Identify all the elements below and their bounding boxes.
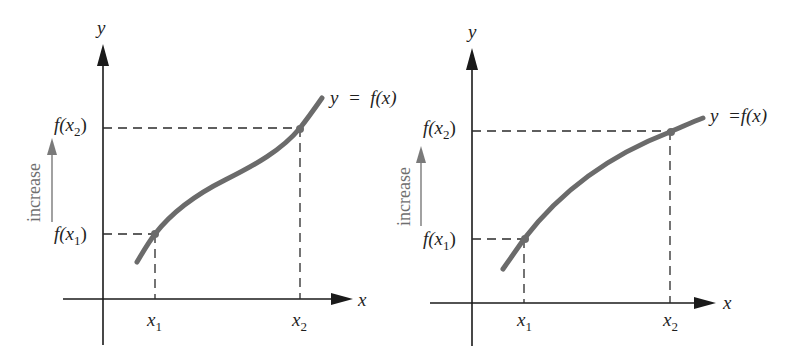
right-x-axis-arrow-icon (694, 297, 716, 309)
left-x1-label: x1 (146, 309, 162, 334)
left-x-axis-label: x (357, 289, 367, 310)
left-fx1-label: f(x1) (54, 223, 87, 248)
left-function-curve (137, 98, 322, 262)
left-increase-arrow-head-icon (47, 138, 57, 155)
left-y-axis-label: y (95, 17, 106, 38)
right-x1-label: x1 (516, 309, 532, 334)
left-graph: y x y = f(x) x1 x2 f(x2) f(x1) (24, 17, 397, 345)
right-x2-label: x2 (662, 309, 678, 334)
right-x-axis-label: x (722, 292, 732, 313)
left-point-x1 (151, 230, 159, 238)
left-point-x2 (296, 125, 304, 133)
left-fx2-label: f(x2) (54, 114, 87, 139)
left-increase-label: increase (24, 163, 44, 222)
right-y-axis-label: y (466, 21, 477, 42)
right-fx2-label: f(x2) (423, 117, 456, 142)
right-point-x2 (667, 128, 675, 136)
right-increase-arrow-head-icon (416, 146, 426, 163)
right-y-axis-arrow-icon (466, 48, 478, 70)
increasing-function-diagram: y x y = f(x) x1 x2 f(x2) f(x1) (0, 0, 789, 364)
right-graph: y x y =f(x) x1 x2 f(x2) f(x1) (394, 21, 767, 346)
left-x2-label: x2 (291, 309, 307, 334)
right-function-curve (503, 118, 703, 269)
right-increase-label: increase (394, 167, 414, 226)
left-y-axis-arrow-icon (97, 44, 109, 66)
left-curve-label: y = f(x) (328, 87, 397, 109)
right-fx1-label: f(x1) (423, 228, 456, 253)
right-curve-label: y =f(x) (708, 105, 767, 127)
left-x-axis-arrow-icon (331, 293, 353, 305)
right-point-x1 (521, 235, 529, 243)
